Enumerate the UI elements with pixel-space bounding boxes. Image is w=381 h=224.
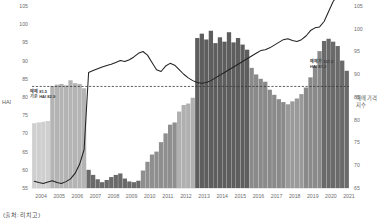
bar (209, 31, 213, 188)
right-axis-title: 매매 가격 지수 (356, 95, 378, 110)
bar (186, 104, 190, 188)
bar (159, 142, 163, 188)
y-axis-right-tick: 100 (354, 26, 363, 32)
bar (317, 51, 321, 188)
bar (41, 122, 45, 188)
bar (86, 170, 90, 188)
bar (304, 88, 308, 188)
bar (218, 37, 222, 188)
y-axis-right-tick: 65 (354, 185, 360, 191)
x-axis-tick: 2016 (253, 193, 265, 199)
bar (77, 84, 81, 188)
bar (100, 182, 104, 188)
y-axis-left-tick: 85 (22, 76, 28, 82)
bar (245, 50, 249, 188)
left-annotation: 매매 81.5기준 HAI 82.9 (30, 89, 55, 99)
bar (173, 122, 177, 188)
bar (182, 105, 186, 188)
bar (259, 79, 263, 188)
y-axis-left-tick: 95 (22, 39, 28, 45)
y-axis-left-tick: 55 (22, 185, 28, 191)
bar (123, 179, 127, 188)
x-axis-tick: 2013 (198, 193, 210, 199)
right-annotation: 매매가 107.3HAI 87.2 (310, 59, 333, 69)
bar (127, 181, 131, 188)
bar (295, 98, 299, 188)
x-axis-tick: 2007 (90, 193, 102, 199)
chart-canvas: 1051009590858075706560551051009590858075… (0, 0, 381, 224)
bar (32, 123, 36, 188)
y-axis-left-tick: 100 (19, 21, 28, 27)
y-axis-right-tick: 90 (354, 71, 360, 77)
bar (272, 95, 276, 188)
y-axis-left-tick: 105 (19, 3, 28, 9)
bar (340, 61, 344, 188)
bar (281, 102, 285, 188)
x-axis-tick: 2021 (343, 193, 355, 199)
source-note: (출처: 리치고) (3, 210, 40, 219)
bar (191, 98, 195, 188)
bar (222, 42, 226, 188)
y-axis-left-tick: 80 (22, 94, 28, 100)
bar (308, 77, 312, 188)
bar (154, 152, 158, 188)
x-axis-tick: 2009 (126, 193, 138, 199)
bar (313, 66, 317, 188)
housing-affordability-chart: 1051009590858075706560551051009590858075… (0, 0, 381, 224)
bar (91, 175, 95, 188)
bar (204, 39, 208, 188)
bar (68, 80, 72, 188)
x-axis-tick: 2011 (162, 193, 173, 199)
bar (59, 84, 63, 188)
bar (114, 175, 118, 188)
bar (136, 181, 140, 188)
bar (37, 122, 41, 188)
x-axis-tick: 2004 (35, 193, 47, 199)
y-axis-left-tick: 65 (22, 149, 28, 155)
y-axis-left-tick: 70 (22, 130, 28, 136)
bar (82, 88, 86, 188)
bar (263, 82, 267, 188)
bar (231, 42, 235, 188)
y-axis-right-tick: 95 (354, 48, 360, 54)
bar (236, 38, 240, 188)
x-axis-tick: 2010 (144, 193, 156, 199)
y-axis-right-tick: 80 (354, 117, 360, 123)
bar (141, 171, 145, 188)
bar (177, 112, 181, 188)
y-axis-left-tick: 60 (22, 167, 28, 173)
bar (336, 46, 340, 188)
bar (195, 38, 199, 188)
bar (200, 34, 204, 188)
x-axis-tick: 2008 (108, 193, 120, 199)
x-axis-tick: 2005 (53, 193, 65, 199)
y-axis-right-tick: 75 (354, 139, 360, 145)
x-axis-tick: 2019 (307, 193, 319, 199)
bar (55, 85, 59, 188)
x-axis-tick: 2006 (72, 193, 84, 199)
left-axis-title: HAI (2, 99, 11, 106)
bar (254, 74, 258, 188)
x-axis-tick: 2015 (235, 193, 247, 199)
bar (299, 94, 303, 188)
bar (290, 101, 294, 188)
bar (213, 43, 217, 188)
bar (240, 45, 244, 188)
bar (268, 90, 272, 188)
bar (286, 104, 290, 188)
bar (132, 182, 136, 188)
bar (96, 179, 100, 188)
y-axis-right-tick: 105 (354, 3, 363, 9)
bar (109, 177, 113, 188)
bar (145, 162, 149, 188)
y-axis-left-tick: 90 (22, 58, 28, 64)
x-axis-tick: 2012 (180, 193, 192, 199)
bar (277, 99, 281, 188)
x-axis-tick: 2020 (325, 193, 337, 199)
bar (227, 32, 231, 188)
bar (46, 121, 50, 188)
bar (345, 71, 349, 188)
y-axis-right-tick: 70 (354, 162, 360, 168)
x-axis-tick: 2017 (271, 193, 283, 199)
bar (118, 173, 122, 188)
